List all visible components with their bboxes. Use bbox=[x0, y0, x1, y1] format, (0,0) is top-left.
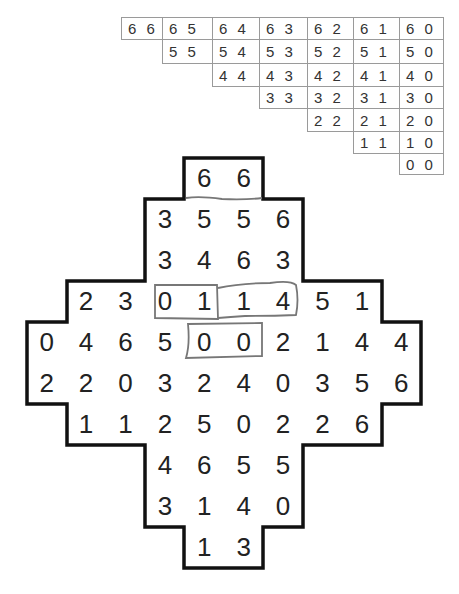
grid-cell[interactable]: 2 bbox=[27, 363, 66, 404]
reference-domino-cell: 6 4 bbox=[212, 17, 260, 40]
reference-domino-cell: 5 0 bbox=[399, 39, 444, 64]
reference-domino-cell: 6 6 bbox=[121, 17, 163, 40]
grid-cell[interactable]: 3 bbox=[145, 240, 184, 281]
grid-cell[interactable]: 4 bbox=[224, 486, 263, 527]
grid-cell[interactable]: 5 bbox=[185, 199, 224, 240]
reference-domino-cell: 2 2 bbox=[307, 108, 354, 132]
grid-cell[interactable]: 6 bbox=[263, 199, 302, 240]
reference-domino-cell: 5 5 bbox=[162, 39, 213, 64]
grid-cell[interactable]: 1 bbox=[185, 527, 224, 568]
grid-cell[interactable]: 0 bbox=[27, 322, 66, 363]
grid-cell[interactable]: 4 bbox=[263, 281, 302, 322]
grid-cell[interactable]: 6 bbox=[106, 322, 145, 363]
grid-cell[interactable]: 6 bbox=[224, 158, 263, 199]
grid-cell[interactable]: 1 bbox=[342, 281, 381, 322]
grid-cell[interactable]: 6 bbox=[382, 363, 421, 404]
grid-cell[interactable]: 4 bbox=[382, 322, 421, 363]
reference-domino-cell: 5 2 bbox=[307, 39, 354, 64]
reference-domino-cell: 4 4 bbox=[212, 63, 260, 87]
grid-cell[interactable]: 1 bbox=[185, 281, 224, 322]
grid-cell[interactable]: 0 bbox=[185, 322, 224, 363]
reference-domino-cell: 4 3 bbox=[259, 63, 308, 87]
grid-cell[interactable]: 2 bbox=[185, 363, 224, 404]
grid-cell[interactable]: 1 bbox=[66, 404, 105, 445]
grid-cell[interactable]: 0 bbox=[224, 322, 263, 363]
reference-domino-cell: 4 1 bbox=[353, 63, 400, 87]
grid-cell[interactable]: 0 bbox=[263, 363, 302, 404]
grid-cell[interactable]: 3 bbox=[145, 199, 184, 240]
grid-cell[interactable]: 2 bbox=[66, 281, 105, 322]
reference-domino-cell: 6 5 bbox=[162, 17, 213, 40]
grid-cell[interactable]: 1 bbox=[106, 404, 145, 445]
reference-domino-cell: 5 4 bbox=[212, 39, 260, 64]
grid-cell[interactable]: 2 bbox=[66, 363, 105, 404]
reference-domino-cell: 3 0 bbox=[399, 86, 444, 109]
reference-domino-cell: 2 1 bbox=[353, 108, 400, 132]
grid-cell[interactable]: 6 bbox=[224, 240, 263, 281]
grid-cell[interactable]: 6 bbox=[185, 445, 224, 486]
grid-cell[interactable]: 0 bbox=[145, 281, 184, 322]
reference-domino-cell: 4 2 bbox=[307, 63, 354, 87]
grid-cell[interactable]: 5 bbox=[263, 445, 302, 486]
grid-cell[interactable]: 2 bbox=[145, 404, 184, 445]
reference-domino-cell: 1 0 bbox=[399, 131, 444, 154]
reference-domino-cell: 0 0 bbox=[399, 153, 444, 175]
grid-cell[interactable]: 0 bbox=[224, 404, 263, 445]
grid-cell[interactable]: 3 bbox=[224, 527, 263, 568]
grid-cell[interactable]: 5 bbox=[303, 281, 342, 322]
reference-domino-cell: 4 0 bbox=[399, 63, 444, 87]
grid-cell[interactable]: 3 bbox=[145, 363, 184, 404]
grid-cell[interactable]: 4 bbox=[66, 322, 105, 363]
grid-cell[interactable]: 6 bbox=[342, 404, 381, 445]
grid-cell[interactable]: 5 bbox=[185, 404, 224, 445]
reference-domino-cell: 6 1 bbox=[353, 17, 400, 40]
grid-cell[interactable]: 0 bbox=[106, 363, 145, 404]
reference-domino-cell: 1 1 bbox=[353, 131, 400, 154]
grid-cell[interactable]: 1 bbox=[185, 486, 224, 527]
grid-cell[interactable]: 4 bbox=[185, 240, 224, 281]
grid-cell[interactable]: 3 bbox=[303, 363, 342, 404]
grid-cell[interactable]: 3 bbox=[263, 240, 302, 281]
grid-cell[interactable]: 3 bbox=[145, 486, 184, 527]
grid-cell[interactable]: 4 bbox=[224, 363, 263, 404]
grid-cell[interactable]: 1 bbox=[303, 322, 342, 363]
reference-domino-cell: 5 3 bbox=[259, 39, 308, 64]
grid-cell[interactable]: 4 bbox=[342, 322, 381, 363]
grid-cell[interactable]: 2 bbox=[263, 404, 302, 445]
grid-cell[interactable]: 6 bbox=[185, 158, 224, 199]
reference-domino-cell: 6 0 bbox=[399, 17, 444, 40]
reference-domino-cell: 6 2 bbox=[307, 17, 354, 40]
reference-domino-cell: 3 3 bbox=[259, 86, 308, 109]
grid-cell[interactable]: 5 bbox=[224, 199, 263, 240]
grid-cell[interactable]: 5 bbox=[224, 445, 263, 486]
reference-domino-cell: 3 2 bbox=[307, 86, 354, 109]
grid-cell[interactable]: 0 bbox=[263, 486, 302, 527]
reference-domino-cell: 6 3 bbox=[259, 17, 308, 40]
grid-cell[interactable]: 5 bbox=[145, 322, 184, 363]
grid-cell[interactable]: 5 bbox=[342, 363, 381, 404]
grid-cell[interactable]: 4 bbox=[145, 445, 184, 486]
reference-domino-cell: 2 0 bbox=[399, 108, 444, 132]
reference-domino-cell: 3 1 bbox=[353, 86, 400, 109]
grid-cell[interactable]: 3 bbox=[106, 281, 145, 322]
grid-cell[interactable]: 2 bbox=[303, 404, 342, 445]
reference-domino-cell: 5 1 bbox=[353, 39, 400, 64]
grid-cell[interactable]: 2 bbox=[263, 322, 302, 363]
grid-cell[interactable]: 1 bbox=[224, 281, 263, 322]
